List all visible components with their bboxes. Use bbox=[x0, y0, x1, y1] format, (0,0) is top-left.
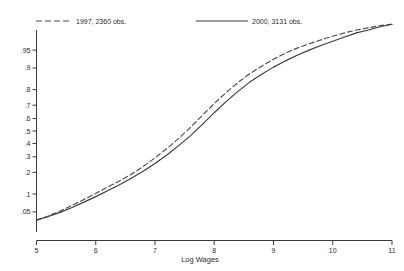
legend: 1997, 2360 obs. 2000, 3131 obs. bbox=[36, 18, 302, 25]
series-line-2000 bbox=[37, 24, 393, 220]
y-axis: .05.1.2.3.4.5.6.7.8.9.95 bbox=[21, 30, 37, 232]
x-tick-group: 567891011 bbox=[35, 241, 396, 255]
y-tick-label: .1 bbox=[25, 191, 31, 198]
legend-label-2000: 2000, 3131 obs. bbox=[252, 18, 302, 25]
y-tick-label: .6 bbox=[25, 115, 31, 122]
y-tick-label: .95 bbox=[21, 47, 31, 54]
x-tick-label: 9 bbox=[272, 247, 276, 254]
y-tick-label: .2 bbox=[25, 169, 31, 176]
y-tick-label: .05 bbox=[21, 208, 31, 215]
x-tick-label: 10 bbox=[329, 247, 337, 254]
x-tick-label: 6 bbox=[94, 247, 98, 254]
y-tick-label: .5 bbox=[25, 128, 31, 135]
y-tick-group: .05.1.2.3.4.5.6.7.8.9.95 bbox=[21, 47, 37, 216]
x-axis-title: Log Wages bbox=[181, 255, 219, 264]
y-tick-label: .8 bbox=[25, 86, 31, 93]
chart-canvas: 1997, 2360 obs. 2000, 3131 obs. .05.1.2.… bbox=[0, 0, 404, 271]
x-tick-label: 11 bbox=[388, 247, 395, 254]
y-tick-label: .7 bbox=[25, 102, 31, 109]
y-tick-label: .3 bbox=[25, 153, 31, 160]
series-line-1997 bbox=[37, 24, 393, 220]
y-tick-label: .4 bbox=[25, 140, 31, 147]
legend-label-1997: 1997, 2360 obs. bbox=[76, 18, 126, 25]
x-tick-label: 8 bbox=[212, 247, 216, 254]
chart-figure: 1997, 2360 obs. 2000, 3131 obs. .05.1.2.… bbox=[0, 0, 404, 271]
series-group bbox=[37, 24, 393, 220]
y-tick-label: .9 bbox=[25, 64, 31, 71]
x-axis: 567891011 Log Wages bbox=[35, 241, 396, 265]
x-tick-label: 7 bbox=[153, 247, 157, 254]
x-tick-label: 5 bbox=[35, 247, 39, 254]
